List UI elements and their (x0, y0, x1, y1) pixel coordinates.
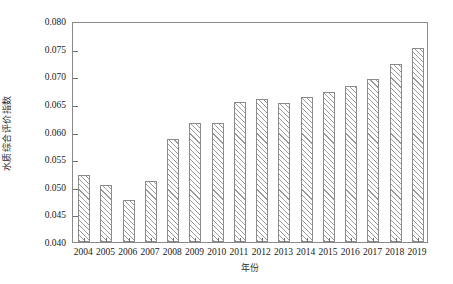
bar-2005 (100, 185, 112, 242)
bar-2013 (278, 103, 290, 242)
y-axis-tick-label: 0.065 (22, 100, 66, 110)
y-axis-tick-mark (73, 78, 78, 79)
x-axis-tick-label: 2016 (339, 246, 361, 258)
x-axis-tick-mark (218, 238, 219, 242)
y-axis-tick-mark (73, 106, 78, 107)
plot-area (72, 22, 428, 243)
x-axis-tick-mark (151, 238, 152, 242)
bar-2009 (189, 123, 201, 242)
x-axis-tick-mark (396, 238, 397, 242)
y-axis-tick-label: 0.080 (22, 17, 66, 27)
x-axis-tick-label: 2014 (295, 246, 317, 258)
x-axis-tick-label: 2006 (117, 246, 139, 258)
x-axis-tick-label: 2017 (361, 246, 383, 258)
x-axis-tick-mark (240, 238, 241, 242)
x-axis-tick-mark (262, 238, 263, 242)
bar-2006 (123, 200, 135, 242)
bar-2016 (345, 86, 357, 242)
x-axis-tick-label: 2008 (161, 246, 183, 258)
bar-2010 (212, 123, 224, 242)
x-axis-tick-label: 2007 (139, 246, 161, 258)
y-axis-tick-label: 0.075 (22, 45, 66, 55)
x-axis-tick-mark (284, 238, 285, 242)
bar-2017 (367, 79, 379, 242)
y-axis-tick-label: 0.060 (22, 128, 66, 138)
bar-2012 (256, 99, 268, 242)
x-axis-tick-mark (418, 238, 419, 242)
x-axis-tick-mark (195, 238, 196, 242)
x-axis-tick-mark (307, 238, 308, 242)
x-axis-tick-mark (84, 238, 85, 242)
x-axis-tick-label: 2018 (384, 246, 406, 258)
y-axis-tick-label: 0.055 (22, 155, 66, 165)
bar-2004 (78, 175, 90, 242)
y-axis-tick-label: 0.045 (22, 210, 66, 220)
x-axis-tick-label: 2009 (183, 246, 205, 258)
x-axis-tick-label: 2010 (206, 246, 228, 258)
x-axis-tick-label: 2015 (317, 246, 339, 258)
x-axis-tick-mark (129, 238, 130, 242)
plot-inner (73, 23, 427, 242)
x-axis-tick-mark (373, 238, 374, 242)
y-axis-tick-label: 0.050 (22, 183, 66, 193)
bar-2014 (301, 97, 313, 242)
bar-2011 (234, 102, 246, 242)
x-axis-tick-mark (329, 238, 330, 242)
x-axis-tick-label: 2004 (72, 246, 94, 258)
x-axis-tick-label-group: 2004200520062007200820092010201120122013… (72, 246, 428, 260)
x-axis-tick-mark (351, 238, 352, 242)
x-axis-tick-mark (173, 238, 174, 242)
bar-2008 (167, 139, 179, 242)
x-axis-tick-label: 2019 (406, 246, 428, 258)
y-axis-tick-label: 0.070 (22, 72, 66, 82)
x-axis-tick-label: 2013 (272, 246, 294, 258)
y-axis-tick-label-group: 0.0400.0450.0500.0550.0600.0650.0700.075… (22, 22, 66, 243)
x-axis-tick-label: 2005 (94, 246, 116, 258)
bar-2018 (390, 64, 402, 242)
y-axis-tick-mark (73, 134, 78, 135)
x-axis-tick-mark (106, 238, 107, 242)
x-axis-title: 年份 (72, 262, 428, 274)
y-axis-title: 水质综合评价指数 (0, 17, 14, 249)
y-axis-tick-mark (73, 161, 78, 162)
bar-2007 (145, 181, 157, 242)
x-axis-tick-label: 2012 (250, 246, 272, 258)
bar-2015 (323, 92, 335, 242)
y-axis-tick-mark (73, 51, 78, 52)
x-axis-tick-label: 2011 (228, 246, 250, 258)
water-quality-index-bar-chart: 水质综合评价指数 0.0400.0450.0500.0550.0600.0650… (0, 0, 453, 284)
bar-2019 (412, 48, 424, 242)
y-axis-tick-label: 0.040 (22, 238, 66, 248)
